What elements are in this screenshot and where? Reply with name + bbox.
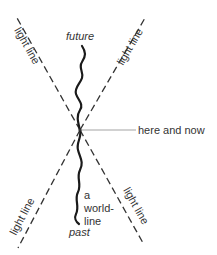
light-line-label-bottom-right: light line xyxy=(121,185,151,226)
past-label: past xyxy=(68,226,91,238)
world-line-label-3: line xyxy=(84,215,101,227)
here-and-now-label: here and now xyxy=(138,124,205,136)
world-line-label-1: a xyxy=(84,189,91,201)
world-line-label-2: world- xyxy=(83,202,114,214)
light-line-label-bottom-left: light line xyxy=(7,196,36,237)
light-line-label-top-right: light line xyxy=(114,26,145,67)
future-label: future xyxy=(66,30,94,42)
light-line-label-top-left: light line xyxy=(12,25,42,66)
spacetime-diagram: future past here and now a world- line l… xyxy=(0,0,217,255)
here-and-now-point xyxy=(78,128,81,131)
